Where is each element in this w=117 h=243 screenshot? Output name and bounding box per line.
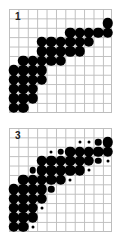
dot xyxy=(18,221,29,232)
dot xyxy=(78,141,81,144)
dot xyxy=(106,159,109,162)
dot xyxy=(95,158,102,165)
dot xyxy=(84,156,95,167)
dot xyxy=(74,165,85,176)
dot xyxy=(87,169,90,172)
dot xyxy=(55,174,66,185)
dot xyxy=(27,93,38,104)
dot xyxy=(27,212,38,223)
dot xyxy=(29,167,36,174)
dot xyxy=(48,186,55,193)
dot xyxy=(69,178,72,181)
panel-1: 1 xyxy=(9,9,112,113)
dot xyxy=(87,141,90,144)
dot xyxy=(31,225,34,228)
dot xyxy=(37,193,48,204)
dot xyxy=(102,146,113,157)
dot xyxy=(55,55,66,66)
dot-field xyxy=(9,9,112,113)
dot xyxy=(37,74,48,85)
dot-field xyxy=(9,128,112,232)
dot xyxy=(74,46,85,57)
panel-3: 3 xyxy=(9,128,112,232)
dot xyxy=(95,139,102,146)
dot xyxy=(50,150,53,153)
dot xyxy=(40,206,43,209)
dot xyxy=(84,37,95,48)
dot xyxy=(102,27,113,38)
dot xyxy=(57,148,64,155)
dot xyxy=(18,102,29,113)
